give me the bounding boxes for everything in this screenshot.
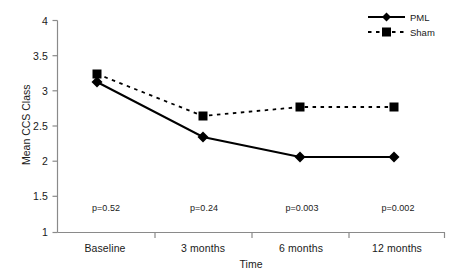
series-line-pml — [97, 82, 394, 157]
annotation-pvalue-baseline: p=0.52 — [92, 203, 120, 213]
y-axis-title: Mean CCS Class — [20, 84, 32, 165]
x-tick-label-6-months: 6 months — [279, 242, 323, 254]
legend-label-pml: PML — [410, 12, 430, 23]
x-axis-title: Time — [240, 258, 263, 270]
legend-glyph-sham — [368, 28, 405, 37]
x-tick-label-3-months: 3 months — [181, 242, 225, 254]
y-tick-label-1: 1 — [26, 226, 48, 238]
y-axis-ticks — [53, 21, 58, 233]
x-tick-label-baseline: Baseline — [84, 242, 125, 254]
annotation-pvalue-6-months: p=0.003 — [286, 203, 319, 213]
series-line-sham — [97, 74, 394, 116]
x-tick-label-12-months: 12 months — [372, 242, 422, 254]
annotation-pvalue-3-months: p=0.24 — [190, 203, 218, 213]
series-markers-sham — [93, 70, 399, 121]
legend-label-sham: Sham — [410, 27, 435, 38]
chart-canvas — [0, 0, 454, 276]
x-axis-ticks — [155, 233, 445, 239]
y-tick-label-1p5: 1.5 — [26, 190, 48, 202]
chart-container: 4 3.5 3 2.5 2 1.5 1 Baseline 3 months 6 … — [0, 0, 454, 276]
annotation-pvalue-12-months: p=0.002 — [382, 203, 415, 213]
series-markers-pml — [92, 77, 400, 163]
y-tick-label-3p5: 3.5 — [26, 50, 48, 62]
legend-glyph-pml — [368, 13, 405, 22]
y-tick-label-4: 4 — [26, 15, 48, 27]
